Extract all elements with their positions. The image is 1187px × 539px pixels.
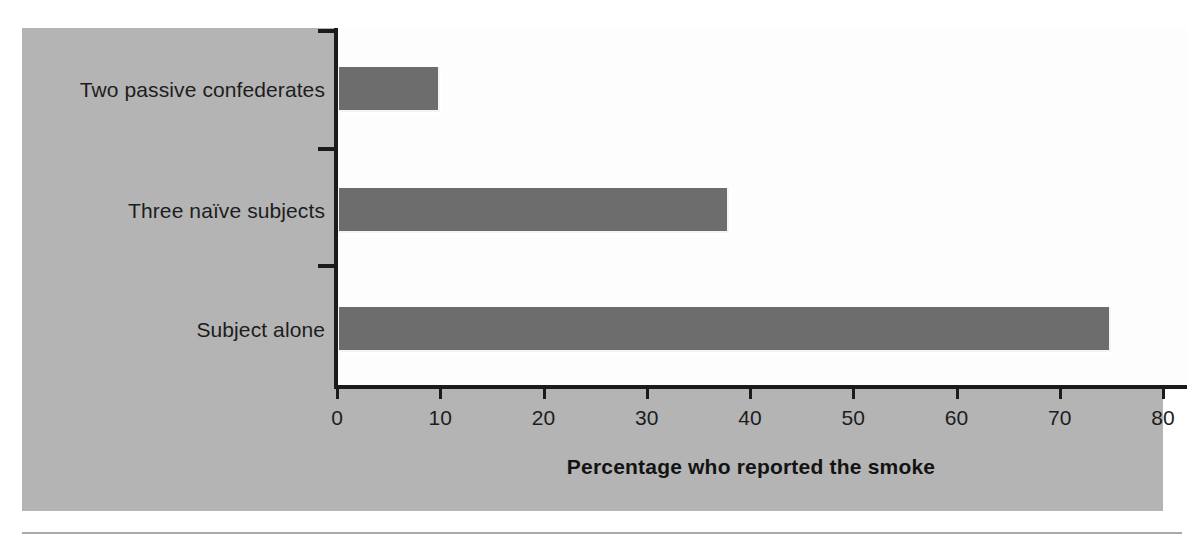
value-axis-label-10: 10: [410, 406, 470, 430]
value-axis-tick-10: [439, 386, 442, 399]
bar-two-passive-confederates: [339, 67, 440, 112]
value-axis-tick-60: [956, 386, 959, 399]
value-axis-tick-20: [543, 386, 546, 399]
value-axis-label-80: 80: [1133, 406, 1187, 430]
value-axis-tick-0: [336, 386, 339, 399]
value-axis-title: Percentage who reported the smoke: [337, 455, 1165, 479]
bar-chart-figure: Two passive confederates Three naïve sub…: [0, 0, 1187, 539]
value-axis-tick-70: [1059, 386, 1062, 399]
bar-three-naive-subjects: [339, 188, 729, 233]
category-axis-tick-1: [318, 147, 338, 151]
value-axis-label-40: 40: [720, 406, 780, 430]
value-axis-tick-40: [749, 386, 752, 399]
category-axis-line: [334, 28, 338, 389]
category-label-two-passive-confederates: Two passive confederates: [0, 78, 325, 102]
caption-divider-rule: [22, 532, 1182, 534]
value-axis-label-20: 20: [514, 406, 574, 430]
category-label-three-naive-subjects: Three naïve subjects: [0, 199, 325, 223]
value-axis-label-60: 60: [927, 406, 987, 430]
category-label-subject-alone: Subject alone: [0, 318, 325, 342]
value-axis-label-30: 30: [617, 406, 677, 430]
category-axis-tick-top: [318, 29, 338, 33]
value-axis-tick-30: [646, 386, 649, 399]
value-axis-tick-50: [852, 386, 855, 399]
bar-subject-alone: [339, 307, 1111, 352]
category-axis-tick-2: [318, 264, 338, 268]
value-axis-label-70: 70: [1030, 406, 1090, 430]
value-axis-label-50: 50: [823, 406, 883, 430]
value-axis-label-0: 0: [307, 406, 367, 430]
value-axis-tick-80: [1162, 386, 1165, 399]
